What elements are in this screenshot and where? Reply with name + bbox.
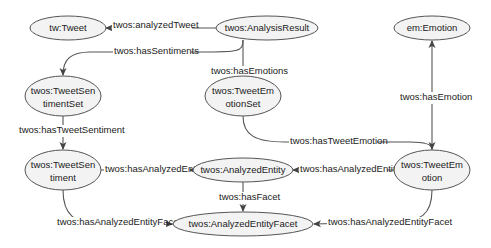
edge-sentiment-has-analyzed-entity: twos:hasAnalyzedEntity — [101, 163, 206, 176]
node-label: twos:AnalyzedEntity — [200, 164, 285, 175]
node-analyzed-entity-facet[interactable]: twos:AnalyzedEntityFacet — [173, 212, 313, 236]
edge-label: twos:hasAnalyzedEntityFacet — [57, 216, 181, 227]
node-label-line1: twos:TweetEm — [401, 159, 463, 170]
ontology-diagram: twos:analyzedTweet twos:hasSentiments tw… — [0, 0, 491, 248]
edge-has-emotions: twos:hasEmotions — [210, 40, 288, 77]
edge-emotion-has-analyzed-entity-facet: twos:hasAnalyzedEntityFacet — [314, 190, 452, 229]
edge-label: twos:hasTweetSentiment — [19, 124, 125, 135]
edge-label: twos:analyzedTweet — [113, 19, 199, 30]
edge-has-tweet-sentiment: twos:hasTweetSentiment — [18, 116, 125, 149]
node-analyzed-entity[interactable]: twos:AnalyzedEntity — [193, 158, 293, 182]
node-tweet-emotion[interactable]: twos:TweetEm otion — [394, 150, 470, 190]
node-label: tw:Tweet — [49, 22, 87, 33]
edge-label: twos:hasSentiments — [114, 45, 199, 56]
edge-emotion-has-analyzed-entity: twos:hasAnalyzedEntity — [293, 163, 401, 176]
edge-label: twos:hasEmotions — [211, 65, 288, 76]
node-analysis-result[interactable]: twos:AnalysisResult — [216, 16, 318, 40]
node-label-line1: twos:TweetSen — [31, 159, 95, 170]
edge-has-emotion: twos:hasEmotion — [399, 41, 472, 150]
edge-label: twos:hasTweetEmotion — [290, 135, 388, 146]
edge-has-tweet-emotion: twos:hasTweetEmotion — [243, 116, 432, 149]
edge-analyzed-tweet: twos:analyzedTweet — [106, 19, 216, 32]
node-label: twos:AnalyzedEntityFacet — [189, 218, 298, 229]
node-emotion[interactable]: em:Emotion — [394, 16, 470, 40]
node-label: twos:AnalysisResult — [225, 22, 310, 33]
edge-sentiment-has-analyzed-entity-facet: twos:hasAnalyzedEntityFacet — [56, 190, 181, 229]
node-tweet-sentiment-set[interactable]: twos:TweetSen timentSet — [25, 76, 101, 116]
node-label-line2: timentSet — [43, 98, 83, 109]
edge-label: twos:hasAnalyzedEntity — [105, 163, 206, 174]
edge-label: twos:hasFacet — [219, 191, 281, 202]
node-label-line2: otionSet — [226, 98, 261, 109]
node-label-line1: twos:TweetSen — [31, 85, 95, 96]
node-label-line2: otion — [422, 172, 443, 183]
node-label-line2: timent — [50, 172, 76, 183]
edge-label: twos:hasAnalyzedEntityFacet — [328, 216, 452, 227]
node-tweet[interactable]: tw:Tweet — [30, 16, 106, 40]
edge-has-facet: twos:hasFacet — [218, 182, 281, 211]
edge-label: twos:hasAnalyzedEntity — [300, 163, 401, 174]
node-tweet-emotion-set[interactable]: twos:TweetEm otionSet — [205, 76, 281, 116]
node-label: em:Emotion — [407, 22, 458, 33]
node-tweet-sentiment[interactable]: twos:TweetSen timent — [25, 150, 101, 190]
edge-label: twos:hasEmotion — [400, 91, 472, 102]
node-label-line1: twos:TweetEm — [212, 85, 274, 96]
